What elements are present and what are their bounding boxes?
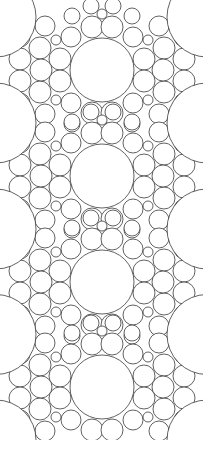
medium-circle	[83, 0, 99, 14]
small-circle	[97, 221, 107, 231]
medium-circle	[49, 154, 71, 176]
medium-circle	[49, 387, 71, 409]
small-circle	[97, 115, 107, 125]
medium-circle	[61, 239, 81, 259]
medium-circle	[101, 16, 123, 38]
medium-circle	[133, 282, 155, 304]
medium-circle	[64, 8, 80, 24]
medium-circle	[153, 398, 175, 420]
medium-circle	[152, 271, 174, 293]
medium-circle	[123, 27, 143, 47]
small-circle	[143, 95, 153, 105]
medium-circle	[29, 293, 51, 315]
small-circle	[51, 201, 61, 211]
medium-circle	[49, 176, 71, 198]
medium-circle	[30, 59, 52, 81]
medium-circle	[124, 114, 140, 130]
medium-circle	[35, 421, 55, 440]
medium-circle	[35, 16, 55, 36]
medium-circle	[123, 344, 143, 364]
small-circle	[51, 247, 61, 257]
medium-circle	[81, 419, 103, 440]
medium-circle	[124, 8, 140, 24]
medium-circle	[35, 333, 55, 353]
medium-circle	[123, 410, 143, 430]
medium-circle	[81, 228, 103, 250]
medium-circle	[61, 133, 81, 153]
medium-circle	[29, 37, 51, 59]
medium-circle	[49, 260, 71, 282]
medium-circle	[149, 210, 169, 230]
medium-circle	[149, 122, 169, 142]
medium-circle	[29, 187, 51, 209]
medium-circle	[123, 305, 143, 325]
medium-circle	[153, 187, 175, 209]
medium-circle	[29, 398, 51, 420]
medium-circle	[133, 48, 155, 70]
medium-circle	[133, 176, 155, 198]
medium-circle	[61, 410, 81, 430]
medium-circle	[29, 81, 51, 103]
circle-packing-diagram	[0, 0, 203, 440]
medium-circle	[133, 260, 155, 282]
medium-circle	[123, 93, 143, 113]
medium-circle	[83, 210, 99, 226]
small-circle	[143, 35, 153, 45]
medium-circle	[153, 81, 175, 103]
medium-circle	[149, 104, 169, 124]
small-circle	[143, 412, 153, 422]
medium-circle	[124, 325, 140, 341]
medium-circle	[123, 199, 143, 219]
medium-circle	[61, 93, 81, 113]
medium-circle	[35, 228, 55, 248]
medium-circle	[152, 165, 174, 187]
big-circle	[70, 355, 134, 419]
medium-circle	[124, 220, 140, 236]
medium-circle	[61, 27, 81, 47]
medium-circle	[30, 165, 52, 187]
medium-circle	[133, 154, 155, 176]
medium-circle	[64, 114, 80, 130]
medium-circle	[29, 354, 51, 376]
medium-circle	[81, 16, 103, 38]
medium-circle	[83, 104, 99, 120]
medium-circle	[101, 333, 123, 355]
small-circle	[143, 352, 153, 362]
big-circle	[70, 250, 134, 314]
medium-circle	[35, 210, 55, 230]
medium-circle	[149, 421, 169, 440]
medium-circle	[61, 344, 81, 364]
medium-circle	[81, 122, 103, 144]
circles-group	[9, 0, 195, 440]
medium-circle	[153, 37, 175, 59]
small-circle	[51, 95, 61, 105]
big-circle	[70, 38, 134, 102]
medium-circle	[153, 249, 175, 271]
medium-circle	[30, 376, 52, 398]
medium-circle	[133, 70, 155, 92]
medium-circle	[152, 59, 174, 81]
medium-circle	[105, 104, 121, 120]
medium-circle	[29, 249, 51, 271]
medium-circle	[153, 143, 175, 165]
small-circle	[51, 352, 61, 362]
small-circle	[97, 326, 107, 336]
small-circle	[143, 247, 153, 257]
medium-circle	[152, 376, 174, 398]
medium-circle	[149, 16, 169, 36]
medium-circle	[83, 315, 99, 331]
small-circle	[97, 9, 107, 19]
medium-circle	[64, 220, 80, 236]
medium-circle	[49, 70, 71, 92]
small-circle	[143, 141, 153, 151]
medium-circle	[149, 228, 169, 248]
medium-circle	[64, 325, 80, 341]
medium-circle	[105, 315, 121, 331]
small-circle	[51, 141, 61, 151]
medium-circle	[49, 282, 71, 304]
medium-circle	[101, 122, 123, 144]
small-circle	[143, 201, 153, 211]
medium-circle	[105, 210, 121, 226]
big-circle	[70, 144, 134, 208]
medium-circle	[153, 293, 175, 315]
